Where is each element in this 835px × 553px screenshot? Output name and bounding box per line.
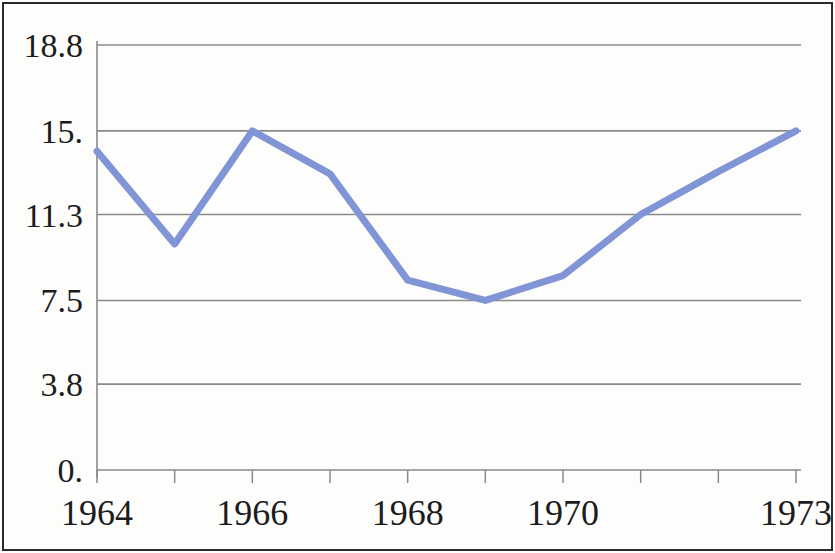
y-tick-label-2: 7.5 (41, 282, 84, 319)
x-tick-label-1973: 1973 (760, 493, 832, 533)
x-axis-tick-labels: 19641966196819701973 (61, 493, 832, 533)
gridlines (97, 45, 801, 470)
line-chart-plot: 0.3.87.511.315.18.8 19641966196819701973 (0, 0, 835, 553)
y-axis-tick-labels: 0.3.87.511.315.18.8 (24, 27, 84, 489)
chart-container: 0.3.87.511.315.18.8 19641966196819701973 (0, 0, 835, 553)
y-tick-label-1: 3.8 (41, 366, 84, 403)
x-axis-tick-marks (97, 470, 796, 483)
y-tick-label-5: 18.8 (24, 27, 84, 64)
x-tick-label-1970: 1970 (527, 493, 599, 533)
data-series (97, 131, 796, 301)
y-tick-label-3: 11.3 (25, 197, 83, 234)
x-tick-label-1966: 1966 (216, 493, 288, 533)
data-line-series-1 (97, 131, 796, 301)
x-tick-label-1964: 1964 (61, 493, 133, 533)
y-tick-label-0: 0. (58, 452, 84, 489)
y-tick-label-4: 15. (41, 113, 84, 150)
x-tick-label-1968: 1968 (372, 493, 444, 533)
